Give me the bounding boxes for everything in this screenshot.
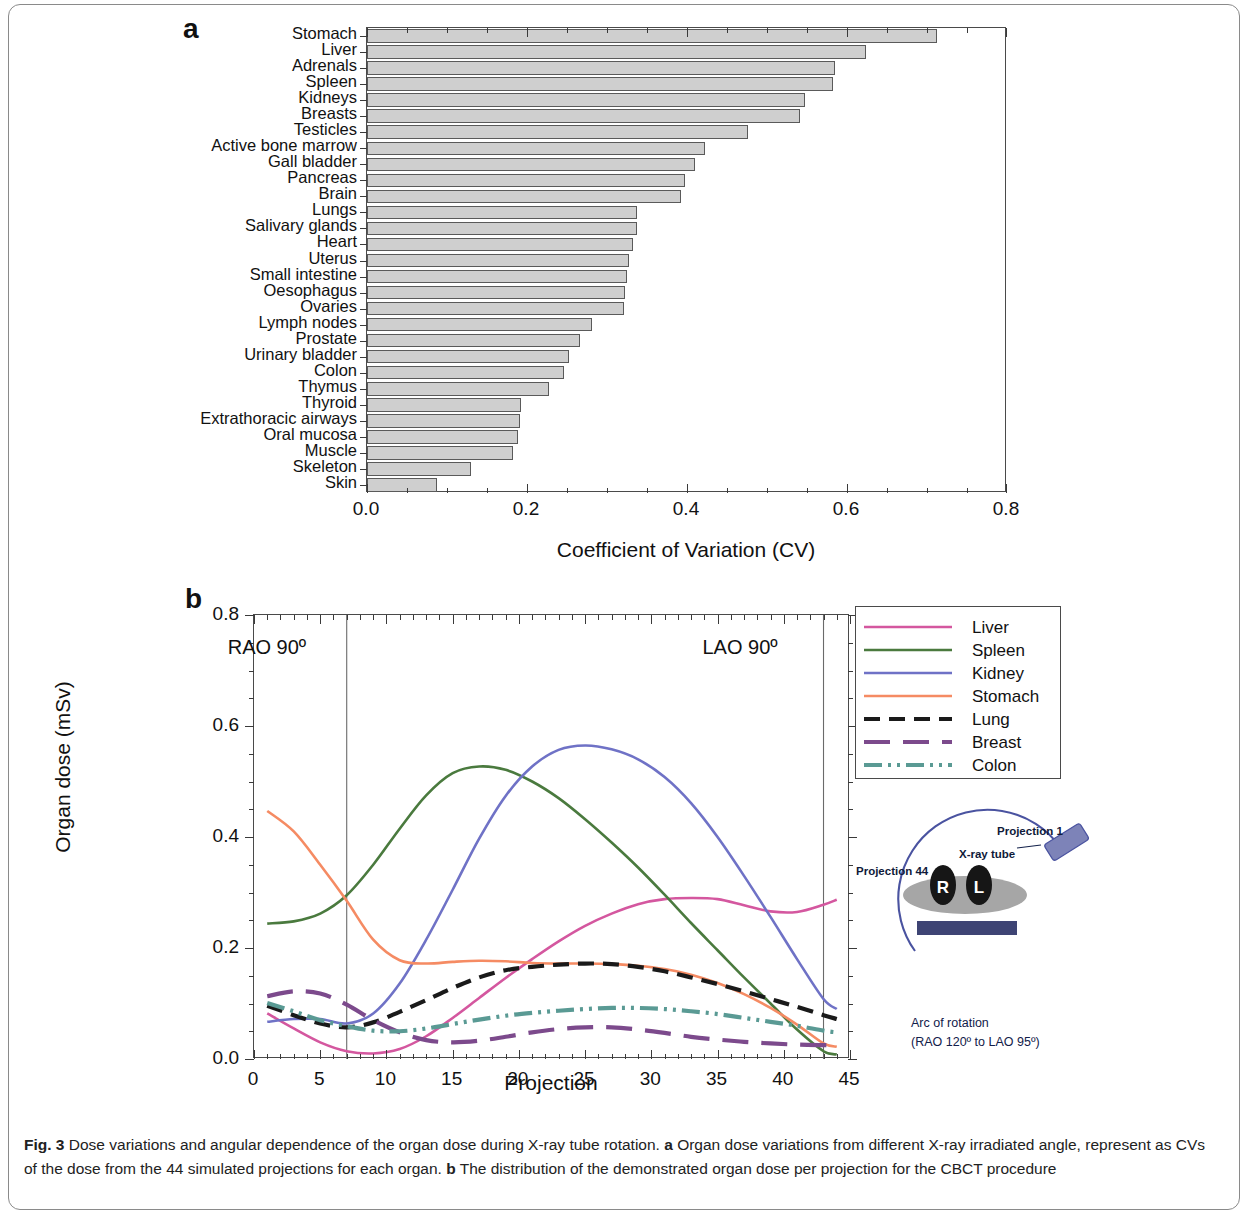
x-tick	[731, 1054, 732, 1059]
bar	[367, 382, 549, 396]
x-tick	[687, 28, 688, 37]
x-tick	[506, 1054, 507, 1059]
x-tick-top	[678, 615, 679, 620]
bar	[367, 478, 437, 492]
category-label: Salivary glands	[245, 218, 357, 232]
x-tick	[807, 28, 808, 33]
x-tick	[607, 28, 608, 33]
x-tick	[767, 28, 768, 33]
x-tick	[691, 1054, 692, 1059]
y-tick-right	[848, 920, 853, 921]
x-tick-top	[665, 615, 666, 620]
bar-row	[367, 206, 1007, 220]
bar	[367, 142, 705, 156]
inset-projection44-label: Projection 44	[856, 865, 928, 877]
y-tick	[360, 52, 367, 53]
x-tick	[810, 1054, 811, 1059]
y-tick-right	[848, 1031, 853, 1032]
x-tick-top	[519, 615, 520, 624]
panel-b-line-chart: b 0.00.20.40.60.8051015202530354045 Proj…	[0, 575, 1248, 1120]
x-tick	[360, 1054, 361, 1059]
category-label: Lungs	[312, 202, 357, 216]
y-tick	[245, 726, 254, 727]
panel-a-x-axis-title: Coefficient of Variation (CV)	[366, 538, 1006, 562]
category-label: Prostate	[296, 331, 357, 345]
x-tick	[784, 1050, 785, 1059]
bar	[367, 430, 518, 444]
caption-b-text: The distribution of the demonstrated org…	[456, 1160, 1057, 1177]
category-label: Breasts	[301, 106, 357, 120]
y-tick	[249, 698, 254, 699]
x-tick	[413, 1054, 414, 1059]
x-tick	[407, 488, 408, 493]
y-tick-right	[848, 1004, 853, 1005]
bar-row	[367, 302, 1007, 316]
bar	[367, 350, 569, 364]
x-tick	[527, 484, 528, 493]
category-label: Uterus	[308, 251, 357, 265]
x-tick	[807, 488, 808, 493]
bar	[367, 109, 800, 123]
x-tick	[647, 488, 648, 493]
x-tick	[1006, 484, 1007, 493]
x-tick	[407, 28, 408, 33]
bar-row	[367, 142, 1007, 156]
caption-b-label: b	[446, 1160, 455, 1177]
x-tick	[887, 488, 888, 493]
x-tick-top	[797, 615, 798, 620]
y-tick-right	[848, 976, 853, 977]
x-tick	[687, 484, 688, 493]
bar-row	[367, 77, 1007, 91]
x-tick	[1006, 28, 1007, 37]
category-label: Thyroid	[302, 395, 357, 409]
category-label: Testicles	[294, 122, 357, 136]
y-tick	[360, 116, 367, 117]
y-tick	[360, 84, 367, 85]
y-tick	[249, 809, 254, 810]
legend-label: Colon	[972, 754, 1016, 777]
figure-caption: Fig. 3 Dose variations and angular depen…	[24, 1133, 1214, 1180]
panel-b-inset-diagram: R L Projection 1 Projection 44 X-ray tub…	[855, 803, 1155, 1065]
series-line-breast	[267, 991, 837, 1045]
x-tick	[847, 28, 848, 37]
inset-arc-label-line2: (RAO 120º to LAO 95º)	[911, 1035, 1040, 1049]
x-tick	[320, 1050, 321, 1059]
bar-row	[367, 158, 1007, 172]
x-tick-top	[453, 615, 454, 624]
y-tick	[360, 212, 367, 213]
x-tick	[447, 488, 448, 493]
x-tick	[373, 1054, 374, 1059]
bar-row	[367, 238, 1007, 252]
bar-row	[367, 45, 1007, 59]
bar-row	[367, 222, 1007, 236]
x-tick	[767, 488, 768, 493]
y-tick	[249, 865, 254, 866]
panel-b-y-axis-title: Organ dose (mSv)	[51, 642, 75, 892]
y-tick	[360, 36, 367, 37]
x-tick	[545, 1054, 546, 1059]
panel-b-x-axis-title: Projection	[253, 1071, 849, 1095]
x-tick-top	[837, 615, 838, 620]
x-tick-top	[625, 615, 626, 620]
x-tick	[400, 1054, 401, 1059]
y-tick	[245, 948, 254, 949]
bar	[367, 414, 520, 428]
bar-row	[367, 414, 1007, 428]
x-tick	[487, 28, 488, 33]
bar	[367, 302, 624, 316]
x-tick	[678, 1054, 679, 1059]
y-tick	[360, 437, 367, 438]
x-tick-top	[585, 615, 586, 624]
legend-label: Liver	[972, 616, 1009, 639]
caption-a-label: a	[664, 1136, 673, 1153]
legend-label: Breast	[972, 731, 1021, 754]
caption-main-text: Dose variations and angular dependence o…	[64, 1136, 664, 1153]
x-tick	[665, 1054, 666, 1059]
category-label: Small intestine	[250, 267, 357, 281]
x-tick	[598, 1054, 599, 1059]
x-tick	[567, 28, 568, 33]
category-label: Pancreas	[287, 170, 357, 184]
x-tick-label: 0.4	[673, 498, 699, 520]
bar-row	[367, 318, 1007, 332]
x-tick-top	[757, 615, 758, 620]
